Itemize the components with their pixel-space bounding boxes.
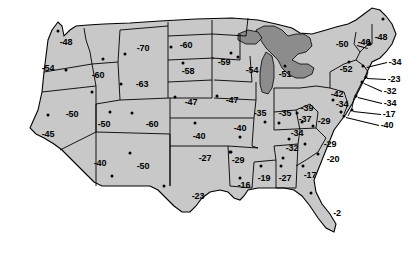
state-value-label-dc: -34 [336, 100, 348, 109]
state-value-label-il: -35 [254, 109, 266, 118]
state-value-label-in: -35 [279, 109, 291, 118]
state-value-label-ks: -40 [193, 132, 205, 141]
state-marker-pa [332, 99, 335, 102]
state-value-label-nm: -50 [137, 162, 149, 171]
state-marker-co [131, 112, 134, 115]
state-marker-ks [194, 122, 197, 125]
state-marker-al [280, 165, 283, 168]
state-value-label-ne: -47 [185, 98, 197, 107]
state-value-label-ri: -23 [388, 75, 400, 84]
state-marker-ia [216, 95, 219, 98]
state-value-label-tn: -32 [286, 144, 298, 153]
state-value-label-nd: -60 [180, 41, 192, 50]
state-marker-mn [230, 52, 233, 55]
state-value-label-me: -48 [375, 33, 387, 42]
state-value-label-nh: -50 [336, 40, 348, 49]
state-value-label-ny: -52 [340, 65, 352, 74]
state-value-label-mt: -70 [137, 44, 149, 53]
state-value-label-nc: -29 [324, 140, 336, 149]
state-value-label-or: -54 [42, 64, 54, 73]
state-marker-wv [296, 112, 299, 115]
state-marker-ky [288, 138, 291, 141]
state-marker-ut [109, 111, 112, 114]
state-value-label-mi: -51 [279, 70, 291, 79]
state-value-label-tx: -23 [192, 192, 204, 201]
state-value-label-va: -29 [318, 117, 330, 126]
state-value-label-ga: -17 [304, 171, 316, 180]
state-marker-wi [237, 56, 240, 59]
state-value-label-ms: -19 [258, 174, 270, 183]
state-value-label-wa: -48 [60, 38, 72, 47]
state-marker-me [382, 18, 385, 21]
state-value-label-wy: -63 [136, 80, 148, 89]
state-marker-ga [302, 165, 305, 168]
state-value-label-fl: -2 [333, 209, 341, 218]
state-value-label-wi: -54 [246, 66, 258, 75]
state-marker-nv [91, 91, 94, 94]
state-marker-id [102, 58, 105, 61]
state-marker-az [111, 175, 114, 178]
state-marker-tn [282, 157, 285, 160]
state-marker-mt [124, 53, 127, 56]
state-value-label-id: -60 [92, 71, 104, 80]
state-value-label-la: -16 [238, 181, 250, 190]
state-marker-in [278, 122, 281, 125]
state-value-label-al: -27 [279, 174, 291, 183]
state-value-label-ct: -32 [384, 87, 396, 96]
state-value-label-ky: -34 [291, 129, 303, 138]
state-marker-wa [57, 30, 60, 33]
state-marker-ar [230, 151, 233, 154]
state-marker-mo [239, 136, 242, 139]
state-value-label-sd: -58 [182, 67, 194, 76]
state-marker-oh [301, 121, 304, 124]
state-marker-sc [317, 153, 320, 156]
state-marker-ca [47, 114, 50, 117]
state-value-label-co: -60 [146, 120, 158, 129]
state-value-label-de: -17 [383, 110, 395, 119]
state-marker-or [65, 69, 68, 72]
state-value-label-az: -40 [94, 159, 106, 168]
state-value-label-ok: -27 [199, 154, 211, 163]
state-marker-la [239, 177, 242, 180]
state-value-label-ia: -47 [226, 96, 238, 105]
state-value-label-pa: -42 [331, 90, 343, 99]
state-value-label-mo: -40 [234, 124, 246, 133]
state-value-label-oh: -39 [301, 104, 313, 113]
state-value-label-sc: -20 [327, 155, 339, 164]
state-value-label-ar: -29 [232, 156, 244, 165]
state-marker-ms [260, 165, 263, 168]
state-marker-nm [129, 152, 132, 155]
state-value-label-md: -40 [381, 121, 393, 130]
state-value-label-mn: -59 [218, 58, 230, 67]
state-value-label-ut: -50 [98, 120, 110, 129]
state-marker-nc [304, 143, 307, 146]
state-marker-sd [182, 62, 185, 65]
state-marker-mi [284, 65, 287, 68]
state-marker-il [264, 121, 267, 124]
state-marker-fl [310, 192, 313, 195]
state-marker-nd [170, 46, 173, 49]
state-marker-ny [348, 61, 351, 64]
state-marker-ne [174, 96, 177, 99]
state-marker-tx [163, 185, 166, 188]
state-value-label-ca: -45 [42, 130, 54, 139]
us-choropleth-map: -48-54-45-50-60-70-63-50-60-40-50-60-58-… [0, 0, 419, 260]
state-value-label-ma: -34 [389, 58, 401, 67]
state-value-label-nv: -50 [66, 110, 78, 119]
state-marker-va [312, 125, 315, 128]
state-marker-dc [340, 111, 343, 114]
state-value-label-nj: -34 [384, 99, 396, 108]
state-marker-ma [362, 65, 365, 68]
state-marker-wy [120, 83, 123, 86]
